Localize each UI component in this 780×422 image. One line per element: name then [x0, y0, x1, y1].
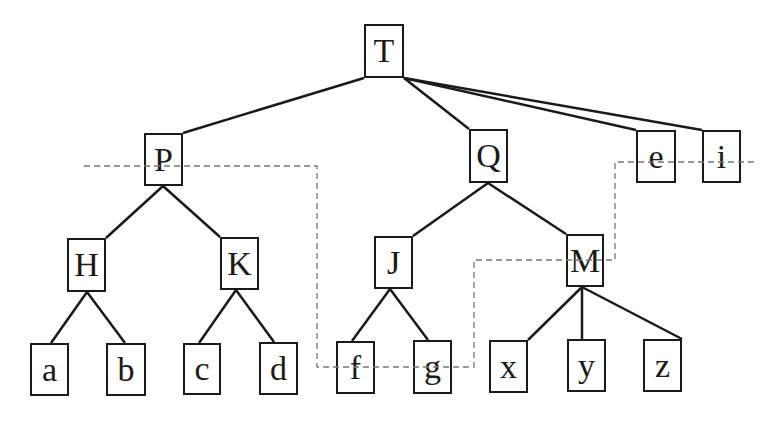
- node-P: P: [144, 133, 183, 186]
- node-a: a: [30, 343, 69, 396]
- node-T: T: [364, 24, 404, 78]
- edge-H-a: [51, 292, 87, 343]
- node-Q: Q: [469, 129, 508, 183]
- node-c: c: [183, 343, 221, 395]
- edge-K-d: [236, 290, 274, 342]
- node-e: e: [636, 130, 676, 183]
- node-J: J: [374, 236, 413, 289]
- node-i: i: [702, 130, 741, 183]
- edge-T-i: [404, 78, 702, 130]
- node-d: d: [259, 342, 298, 395]
- node-z: z: [643, 339, 682, 392]
- node-f: f: [336, 341, 375, 394]
- edge-P-H: [106, 186, 163, 238]
- node-K: K: [220, 237, 259, 290]
- edge-T-P: [183, 78, 364, 133]
- edge-P-K: [163, 186, 220, 237]
- edge-H-b: [87, 292, 125, 343]
- edge-J-f: [352, 289, 390, 341]
- node-H: H: [67, 238, 106, 292]
- edge-M-z: [582, 287, 682, 339]
- edge-Q-J: [413, 183, 488, 236]
- node-g: g: [413, 340, 452, 394]
- node-x: x: [489, 340, 528, 393]
- node-b: b: [106, 343, 146, 396]
- node-M: M: [566, 234, 604, 287]
- edge-K-c: [199, 290, 236, 343]
- edge-J-g: [390, 289, 428, 340]
- edge-M-x: [528, 287, 582, 340]
- node-y: y: [567, 339, 606, 392]
- edge-Q-M: [488, 183, 566, 234]
